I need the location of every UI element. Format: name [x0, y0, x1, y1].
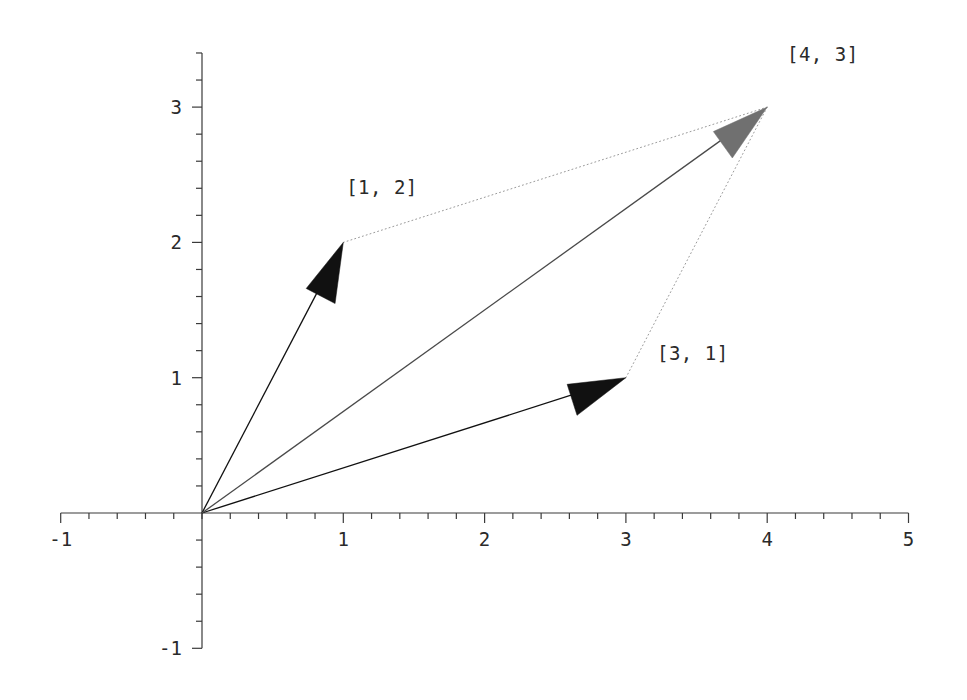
x-axis-tick-label: 5: [903, 528, 914, 550]
dotted-b-to-sum: [626, 107, 767, 378]
plot-canvas: -112345-1123 [1, 2][3, 1][4, 3]: [0, 0, 967, 700]
y-axis-tick-label: 2: [171, 231, 182, 253]
vector-sum-shaft: [202, 137, 726, 513]
vector-a-shaft: [202, 288, 320, 513]
vector-sum-arrowhead: [713, 107, 767, 158]
vector-label: [3, 1]: [657, 342, 729, 364]
vector-labels-layer: [1, 2][3, 1][4, 3]: [346, 43, 858, 364]
axes-layer: -112345-1123: [49, 53, 914, 659]
y-axis-tick-label: -1: [159, 637, 182, 659]
vector-b-shaft: [202, 393, 577, 513]
vector-label: [1, 2]: [346, 176, 418, 198]
vector-b-arrowhead: [567, 378, 626, 416]
x-axis-tick-label: 1: [338, 528, 349, 550]
y-axis-tick-label: 1: [171, 367, 182, 389]
vector-a-arrowhead: [306, 242, 343, 303]
x-axis-tick-label: 3: [620, 528, 631, 550]
vector-label: [4, 3]: [787, 43, 859, 65]
construction-lines-layer: [343, 107, 767, 378]
vectors-layer: [202, 107, 767, 513]
vector-addition-figure: -112345-1123 [1, 2][3, 1][4, 3]: [0, 0, 967, 700]
x-axis-tick-label: -1: [49, 528, 72, 550]
y-axis-tick-label: 3: [171, 96, 182, 118]
x-axis-tick-label: 4: [761, 528, 772, 550]
x-axis-tick-label: 2: [479, 528, 490, 550]
